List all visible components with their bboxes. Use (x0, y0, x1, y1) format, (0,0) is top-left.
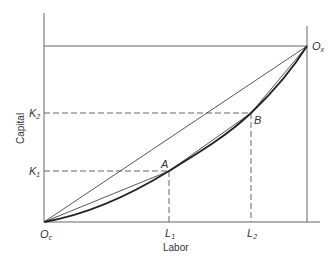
edgeworth-box-diagram: Oc Ox K1 K2 L1 L2 A B Labor Capital (0, 0, 333, 268)
dashed-guides (44, 113, 251, 222)
x-axis-title: Labor (163, 242, 189, 253)
origin-x-label: Ox (312, 40, 325, 53)
origin-c-label: Oc (40, 228, 53, 241)
k1-label: K1 (29, 165, 40, 178)
point-a-label: A (160, 158, 168, 170)
axes (44, 13, 320, 222)
l2-label: L2 (247, 227, 257, 240)
segment-a-b (169, 113, 251, 171)
l1-label: L1 (165, 227, 175, 240)
point-b-label: B (254, 114, 261, 126)
y-axis-title: Capital (15, 113, 26, 144)
thin-lines (44, 46, 307, 222)
diagonal-line (44, 46, 307, 222)
k2-label: K2 (29, 107, 40, 120)
ray-oc-a (44, 171, 169, 222)
ray-b-ox (251, 46, 307, 113)
